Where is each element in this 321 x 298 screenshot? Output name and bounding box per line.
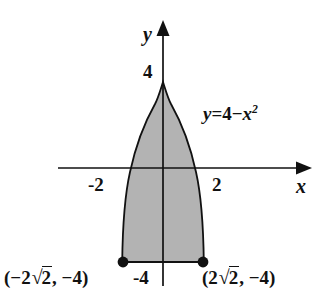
point-marker-left [118,257,129,268]
right-endpoint-label: (2√2, −4) [202,268,275,288]
right-comma: , [239,267,249,288]
right-radical: √2 [218,268,239,288]
right-y-value: −4 [249,267,269,288]
left-coefficient: −2 [10,267,30,288]
curve-equation-label: y=4−x2 [203,104,258,123]
left-endpoint-label: (−2√2, −4) [4,268,88,288]
eqn-x: x [243,103,253,124]
left-close-paren: ) [82,267,88,288]
eqn-four: 4 [222,103,232,124]
left-radical-sign: √ [32,266,43,288]
x-tick-label-2: 2 [212,175,222,194]
parabola-region-figure: y x 4 -2 2 -4 y=4−x2 (−2√2, −4) (2√2, −4… [0,0,321,298]
y-axis-arrowhead [157,20,170,36]
x-axis-arrowhead [296,162,312,175]
left-comma: , [52,267,62,288]
point-marker-right [198,257,209,268]
y-axis-label: y [143,24,152,44]
right-radicand: 2 [229,266,240,288]
y-tick-label-neg4: -4 [133,268,149,287]
right-coefficient: 2 [208,267,218,288]
plot-canvas [0,0,321,298]
eqn-exponent: 2 [252,103,258,116]
left-radicand: 2 [42,266,53,288]
x-axis-label: x [296,176,306,196]
left-y-value: −4 [62,267,82,288]
eqn-minus: − [232,103,243,124]
left-radical: √2 [31,268,52,288]
x-tick-label-neg2: -2 [88,175,104,194]
right-close-paren: ) [269,267,275,288]
y-tick-label-4: 4 [143,62,153,81]
eqn-equals: = [211,103,222,124]
